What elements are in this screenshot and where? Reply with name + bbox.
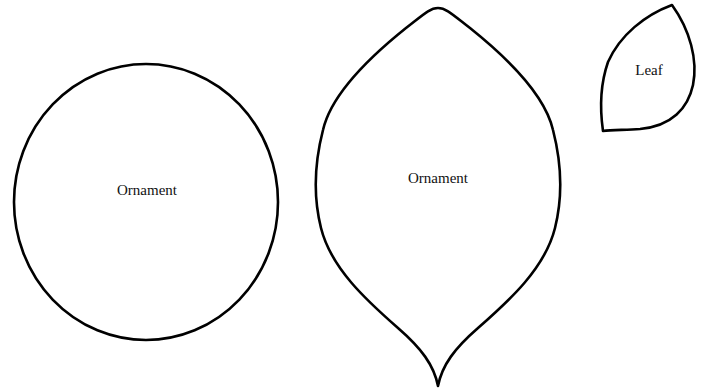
teardrop-ornament-shape — [316, 8, 560, 386]
shapes-layer — [0, 0, 702, 388]
leaf-label: Leaf — [635, 63, 662, 78]
teardrop-ornament-label: Ornament — [408, 171, 468, 186]
circle-ornament-label: Ornament — [117, 183, 177, 198]
pattern-canvas: Ornament Ornament Leaf — [0, 0, 702, 388]
circle-ornament-shape — [14, 64, 278, 340]
